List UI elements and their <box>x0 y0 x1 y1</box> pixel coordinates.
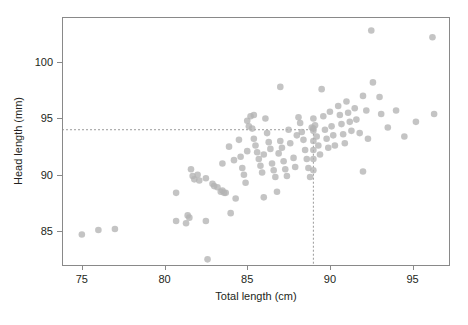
data-point <box>251 112 258 119</box>
data-point <box>363 107 370 114</box>
data-point <box>280 158 287 165</box>
data-point <box>330 132 337 139</box>
data-point <box>284 173 291 180</box>
data-point <box>295 114 302 121</box>
data-point <box>222 190 229 197</box>
data-point <box>310 167 317 174</box>
chart-canvas: 7580859095859095100 Total length (cm) He… <box>0 0 468 325</box>
data-point <box>232 195 239 202</box>
y-axis-title: Head length (mm) <box>12 97 24 185</box>
data-point <box>287 140 294 147</box>
x-tick-label: 90 <box>324 273 336 285</box>
data-point <box>259 169 266 176</box>
data-point <box>348 128 355 135</box>
data-point <box>244 148 251 155</box>
data-point <box>353 116 360 123</box>
data-point <box>340 131 347 138</box>
data-point <box>272 174 279 181</box>
plot-frame <box>63 18 450 266</box>
y-tick-label: 85 <box>41 225 53 237</box>
data-point <box>79 231 86 238</box>
data-point <box>254 149 261 156</box>
data-point <box>307 174 314 181</box>
x-axis-title: Total length (cm) <box>215 290 296 302</box>
data-point <box>325 144 332 151</box>
data-point <box>320 113 327 120</box>
data-point <box>239 165 246 172</box>
data-point <box>322 126 329 133</box>
data-point <box>313 133 320 140</box>
x-tick-label: 75 <box>76 273 88 285</box>
data-point <box>112 226 119 233</box>
data-point <box>346 119 353 126</box>
data-point <box>370 79 377 86</box>
data-point <box>196 177 203 184</box>
data-point <box>356 130 363 137</box>
data-point <box>376 94 383 101</box>
data-point <box>203 218 210 225</box>
y-tick-label: 100 <box>35 56 53 68</box>
scatter-plot-figure: 7580859095859095100 Total length (cm) He… <box>0 0 468 325</box>
data-point <box>249 125 256 132</box>
data-point <box>431 111 438 118</box>
y-tick-label: 90 <box>41 169 53 181</box>
data-point <box>204 256 211 263</box>
data-point <box>323 135 330 142</box>
data-point <box>219 160 226 167</box>
data-point <box>360 93 367 100</box>
data-point <box>335 103 342 110</box>
data-point <box>252 142 259 149</box>
data-point <box>365 135 372 142</box>
y-tick-label: 95 <box>41 112 53 124</box>
data-point <box>264 130 271 137</box>
data-point <box>186 214 193 221</box>
data-point <box>256 156 263 163</box>
data-point <box>332 142 339 149</box>
data-point <box>360 168 367 175</box>
data-point <box>378 111 385 118</box>
data-point <box>429 34 436 41</box>
data-point <box>173 218 180 225</box>
data-point <box>277 138 284 145</box>
data-point <box>327 108 334 115</box>
data-point <box>265 139 272 146</box>
data-point <box>275 150 282 157</box>
data-point <box>231 157 238 164</box>
data-point <box>317 151 324 158</box>
data-point <box>279 144 286 151</box>
data-point <box>337 112 344 119</box>
data-point <box>95 227 102 234</box>
data-point <box>343 98 350 105</box>
data-point <box>385 124 392 131</box>
data-point <box>188 166 195 173</box>
data-point <box>237 153 244 160</box>
data-point <box>292 164 299 171</box>
data-point <box>262 115 269 122</box>
reference-lines-group <box>62 130 313 265</box>
data-point <box>251 135 258 142</box>
data-point <box>242 179 249 186</box>
data-point <box>282 166 289 173</box>
data-point <box>342 140 349 147</box>
data-point <box>173 190 180 197</box>
data-point <box>226 143 233 150</box>
data-point <box>297 120 304 127</box>
data-point <box>236 137 243 144</box>
data-point <box>277 84 284 91</box>
data-point <box>312 122 319 129</box>
data-point <box>413 119 420 126</box>
data-point <box>183 220 190 227</box>
data-point <box>328 123 335 130</box>
data-point <box>300 137 307 144</box>
data-point <box>290 155 297 162</box>
x-tick-label: 95 <box>406 273 418 285</box>
data-points-group <box>79 27 438 262</box>
data-point <box>315 142 322 149</box>
x-tick-label: 80 <box>158 273 170 285</box>
data-point <box>302 147 309 154</box>
data-point <box>318 86 325 93</box>
data-point <box>310 128 317 135</box>
data-point <box>345 110 352 117</box>
data-point <box>303 156 310 163</box>
data-point <box>194 172 201 179</box>
